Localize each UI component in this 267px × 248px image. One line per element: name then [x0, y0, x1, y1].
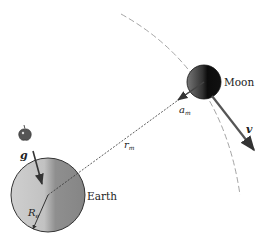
gravity-label: g: [20, 149, 28, 162]
diagram-canvas: Moon Earth am v rm g Re: [0, 0, 267, 248]
earth-moon-distance-label: rm: [124, 139, 135, 151]
velocity-label: v: [246, 123, 253, 136]
earth-moon-distance-line: [48, 90, 192, 195]
earth-label: Earth: [87, 190, 117, 202]
apple-icon: [19, 125, 32, 140]
moon-acceleration-label: am: [179, 104, 191, 116]
earth-moon-diagram: Moon Earth am v rm g Re: [0, 0, 267, 248]
moon-label: Moon: [224, 76, 254, 88]
